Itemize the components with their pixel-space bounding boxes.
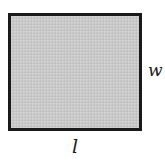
width-label: w: [148, 62, 163, 79]
shaded-rectangle: [8, 13, 142, 131]
length-label: l: [72, 137, 78, 156]
